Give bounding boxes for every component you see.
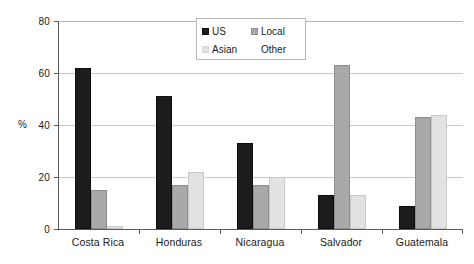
bar-costa-rica-asian[interactable]: [107, 226, 123, 229]
legend-item-other[interactable]: Other: [251, 44, 300, 55]
y-tick-mark-60: [54, 73, 59, 74]
x-tick-label-guatemala: Guatemala: [396, 236, 448, 248]
bar-costa-rica-us[interactable]: [75, 68, 91, 229]
bar-chart: 80 60 40 20 0 %: [0, 0, 474, 264]
legend-row-2: Asian Other: [202, 40, 300, 58]
chart-legend: US Local Asian Other: [196, 18, 306, 60]
bar-salvador-local[interactable]: [334, 65, 350, 229]
x-tick-mark-5: [462, 229, 463, 234]
x-tick-mark-4: [382, 229, 383, 234]
bar-nicaragua-local[interactable]: [253, 185, 269, 229]
x-axis-labels: Costa Rica Honduras Nicaragua Salvador G…: [58, 236, 462, 258]
y-tick-label-60: 60: [38, 68, 50, 79]
y-tick-label-20: 20: [38, 172, 50, 183]
bar-honduras-us[interactable]: [156, 96, 172, 229]
bar-salvador-asian[interactable]: [350, 195, 366, 229]
bar-costa-rica-local[interactable]: [91, 190, 107, 229]
bar-nicaragua-asian[interactable]: [269, 177, 285, 229]
x-tick-mark-2: [220, 229, 221, 234]
y-tick-label-80: 80: [38, 16, 50, 27]
legend-label-us: US: [212, 26, 226, 37]
x-tick-label-salvador: Salvador: [320, 236, 362, 248]
legend-item-asian[interactable]: Asian: [202, 44, 251, 55]
bar-guatemala-asian[interactable]: [431, 115, 447, 229]
bar-guatemala-local[interactable]: [415, 117, 431, 229]
legend-label-local: Local: [261, 26, 285, 37]
bar-group-costa-rica: [75, 21, 139, 229]
bar-honduras-local[interactable]: [172, 185, 188, 229]
y-tick-mark-20: [54, 177, 59, 178]
legend-swatch-white-icon: [251, 46, 258, 53]
bar-salvador-us[interactable]: [318, 195, 334, 229]
y-axis-title: %: [18, 119, 27, 130]
bar-guatemala-us[interactable]: [399, 206, 415, 229]
bar-group-guatemala: [399, 21, 463, 229]
x-tick-mark-3: [301, 229, 302, 234]
bar-group-salvador: [318, 21, 382, 229]
legend-swatch-gray-icon: [251, 28, 258, 35]
x-tick-mark-1: [139, 229, 140, 234]
legend-label-asian: Asian: [212, 44, 237, 55]
x-tick-label-costa-rica: Costa Rica: [72, 236, 124, 248]
bar-nicaragua-us[interactable]: [237, 143, 253, 229]
y-tick-label-0: 0: [44, 224, 50, 235]
y-tick-mark-40: [54, 125, 59, 126]
legend-swatch-black-icon: [202, 28, 209, 35]
bar-honduras-asian[interactable]: [188, 172, 204, 229]
legend-item-local[interactable]: Local: [251, 26, 300, 37]
x-tick-label-nicaragua: Nicaragua: [236, 236, 285, 248]
legend-item-us[interactable]: US: [202, 26, 251, 37]
legend-row-1: US Local: [202, 22, 300, 40]
x-tick-label-honduras: Honduras: [156, 236, 202, 248]
legend-label-other: Other: [261, 44, 286, 55]
legend-swatch-light-gray-icon: [202, 46, 209, 53]
y-tick-label-40: 40: [38, 120, 50, 131]
y-tick-mark-0: [54, 229, 59, 230]
y-tick-mark-80: [54, 21, 59, 22]
